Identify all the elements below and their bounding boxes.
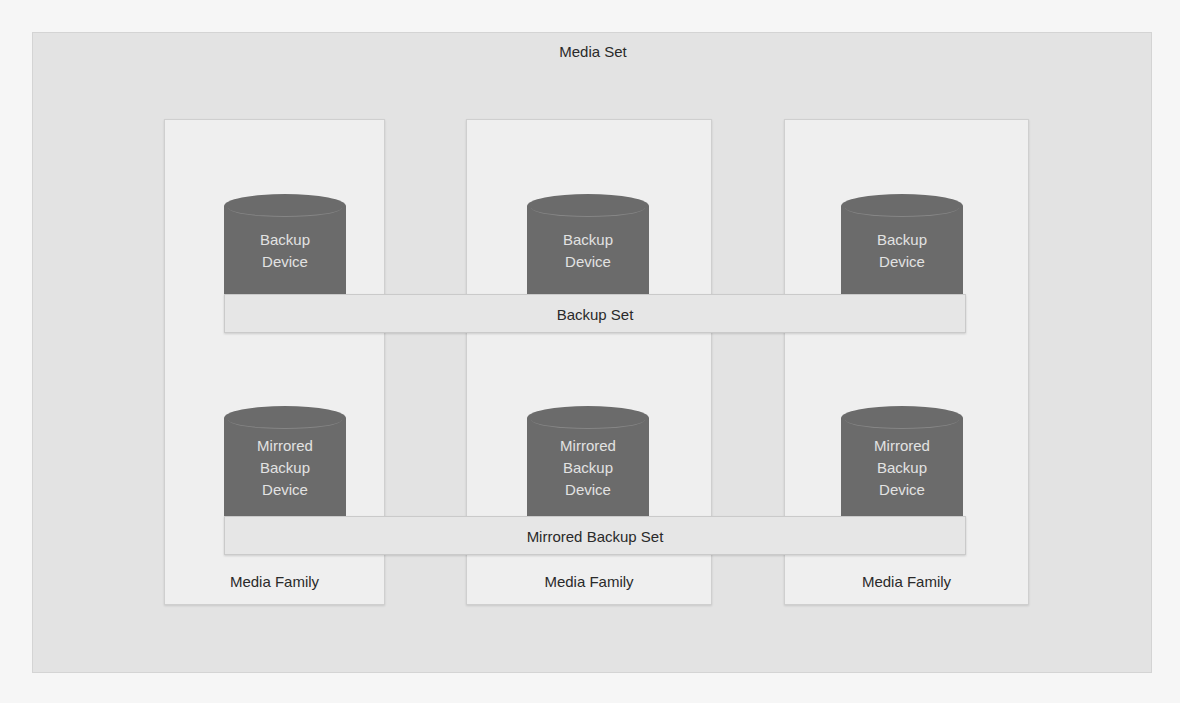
device-label-line: Device [565, 251, 611, 273]
device-label-line: Device [262, 251, 308, 273]
device-label-line: Backup [877, 457, 927, 479]
device-label-line: Backup [877, 229, 927, 251]
device-label-line: Device [262, 479, 308, 501]
device-label-line: Mirrored [560, 435, 616, 457]
media-family-label: Media Family [165, 573, 384, 590]
backup-set-bar: Backup Set [224, 294, 966, 333]
media-family-label: Media Family [785, 573, 1028, 590]
mirrored-backup-set-bar: Mirrored Backup Set [224, 516, 966, 555]
backup-device-cylinder-icon: Backup Device [224, 194, 346, 294]
media-family-label: Media Family [467, 573, 711, 590]
device-label-line: Backup [563, 229, 613, 251]
media-set-container: Media Set Media Family Media Family Medi… [32, 32, 1152, 673]
backup-device-cylinder-icon: Backup Device [527, 194, 649, 294]
device-label-line: Backup [563, 457, 613, 479]
device-label-line: Device [879, 251, 925, 273]
media-set-title: Media Set [33, 43, 1153, 60]
mirrored-backup-device-cylinder-icon: Mirrored Backup Device [527, 406, 649, 516]
mirrored-backup-device-cylinder-icon: Mirrored Backup Device [224, 406, 346, 516]
backup-device-cylinder-icon: Backup Device [841, 194, 963, 294]
device-label-line: Device [879, 479, 925, 501]
device-label-line: Mirrored [257, 435, 313, 457]
device-label-line: Device [565, 479, 611, 501]
mirrored-backup-device-cylinder-icon: Mirrored Backup Device [841, 406, 963, 516]
device-label-line: Backup [260, 229, 310, 251]
device-label-line: Mirrored [874, 435, 930, 457]
device-label-line: Backup [260, 457, 310, 479]
